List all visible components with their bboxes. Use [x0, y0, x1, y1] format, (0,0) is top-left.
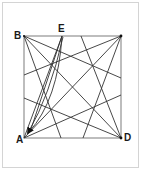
line-e-a [30, 36, 62, 132]
point-b-dot [23, 35, 25, 37]
point-d-dot [120, 137, 123, 140]
label-e: E [58, 24, 65, 34]
construction-lines [24, 36, 121, 138]
label-d: D [124, 133, 131, 143]
point-c-dot [120, 35, 123, 38]
label-b: B [14, 31, 21, 41]
label-a: A [16, 135, 23, 145]
square-construction-diagram [0, 0, 143, 172]
